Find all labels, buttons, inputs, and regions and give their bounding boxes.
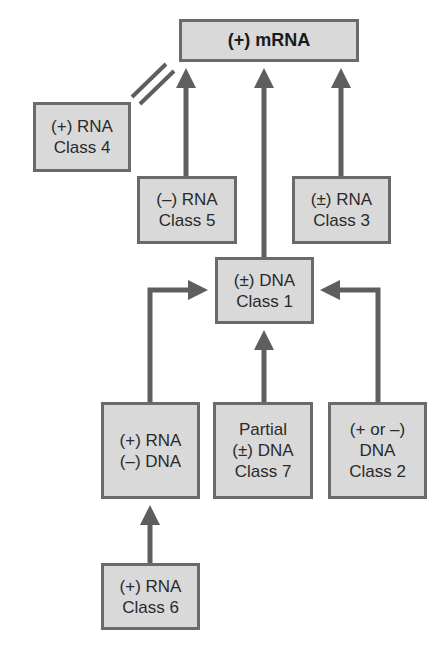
node-class7-line3: Class 7 — [235, 461, 292, 482]
node-class2-line3: Class 2 — [349, 461, 406, 482]
node-class2: (+ or –) DNA Class 2 — [328, 402, 427, 499]
node-class1-line1: (±) DNA — [234, 270, 295, 291]
node-class6: (+) RNA Class 6 — [101, 563, 200, 630]
node-class6-line1: (+) RNA — [120, 576, 182, 597]
node-class1-line2: Class 1 — [236, 291, 293, 312]
node-class2-line1: (+ or –) — [350, 419, 405, 440]
node-class7-line2: (±) DNA — [232, 440, 293, 461]
node-class7: Partial (±) DNA Class 7 — [213, 402, 313, 499]
node-class5-line1: (–) RNA — [156, 189, 217, 210]
node-class2-line2: DNA — [360, 440, 396, 461]
arrow-rt-to-class1 — [150, 290, 198, 402]
node-class5: (–) RNA Class 5 — [137, 176, 237, 244]
node-class6-line2: Class 6 — [122, 597, 179, 618]
node-rt-line1: (+) RNA — [120, 430, 182, 451]
node-class3: (±) RNA Class 3 — [292, 176, 391, 244]
node-class1: (±) DNA Class 1 — [215, 257, 314, 324]
node-class4: (+) RNA Class 4 — [33, 102, 131, 172]
node-rt-intermediate: (+) RNA (–) DNA — [101, 402, 200, 499]
node-class4-line2: Class 4 — [54, 137, 111, 158]
arrow-class2-to-class1 — [330, 290, 378, 402]
node-mrna: (+) mRNA — [179, 19, 359, 62]
node-class3-line1: (±) RNA — [311, 189, 372, 210]
node-class3-line2: Class 3 — [313, 210, 370, 231]
node-rt-line2: (–) DNA — [120, 451, 181, 472]
node-class5-line2: Class 5 — [159, 210, 216, 231]
node-class4-line1: (+) RNA — [51, 116, 113, 137]
node-class7-line1: Partial — [239, 419, 287, 440]
identity-double-slash-icon — [132, 64, 174, 104]
node-mrna-label: (+) mRNA — [228, 30, 311, 51]
connector-layer — [0, 0, 443, 651]
